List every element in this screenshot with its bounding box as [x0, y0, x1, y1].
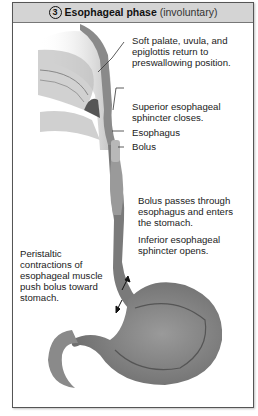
pharynx-region [38, 24, 116, 150]
bolus [111, 140, 120, 162]
label-esophagus: Esophagus [132, 127, 180, 138]
label-superior-sphincter: Superior esophageal sphincter closes. [132, 101, 221, 123]
label-inferior-sphincter: Inferior esophageal sphincter opens. [138, 234, 220, 256]
label-bolus-passes: Bolus passes through esophagus and enter… [138, 195, 233, 228]
label-bolus: Bolus [132, 141, 156, 152]
label-peristaltic: Peristaltic contractions of esophageal m… [20, 248, 103, 303]
esophagus [108, 140, 138, 308]
label-soft-palate: Soft palate, uvula, and epiglottis retur… [132, 35, 231, 68]
